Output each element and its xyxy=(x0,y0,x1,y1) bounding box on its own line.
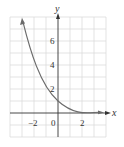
y-axis-label: y xyxy=(54,3,60,14)
tick-x-2: 2 xyxy=(80,118,85,128)
curve-arrow-top-icon xyxy=(20,18,25,25)
exponential-chart: y x −2 0 2 6 4 2 xyxy=(0,0,124,147)
curve-arrow-right-icon xyxy=(98,111,104,115)
x-axis-arrow-icon xyxy=(105,111,111,115)
tick-y-6: 6 xyxy=(50,36,55,46)
tick-x-0: 0 xyxy=(51,118,56,128)
curve xyxy=(23,22,100,113)
x-axis-label: x xyxy=(111,107,117,118)
tick-y-4: 4 xyxy=(50,60,55,70)
tick-x-neg2: −2 xyxy=(28,118,38,128)
tick-y-2: 2 xyxy=(50,84,55,94)
